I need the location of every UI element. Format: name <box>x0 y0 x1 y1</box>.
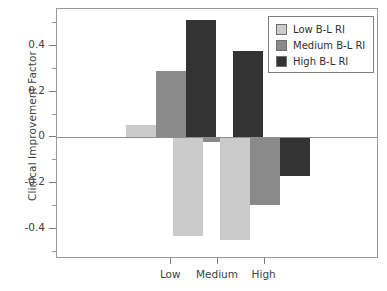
legend-label: Low B-L RI <box>293 25 345 35</box>
bar-high-high <box>280 137 310 176</box>
x-tick-label-high: High <box>224 268 304 280</box>
legend-item-high[interactable]: High B-L RI <box>276 54 373 69</box>
bar-high-medium <box>250 137 280 205</box>
legend-item-medium[interactable]: Medium B-L RI <box>276 38 373 53</box>
y-tick-label: 0 <box>5 129 45 141</box>
y-tick-label: 0.4 <box>5 38 45 50</box>
y-tick <box>49 136 56 137</box>
legend-swatch-icon <box>276 56 287 67</box>
legend-label: High B-L RI <box>293 57 348 67</box>
legend-swatch-icon <box>276 24 287 35</box>
y-tick-label: -0.4 <box>5 221 45 233</box>
x-tick <box>264 258 265 264</box>
y-tick-label: -0.2 <box>5 175 45 187</box>
x-tick <box>217 258 218 264</box>
x-tick <box>170 258 171 264</box>
y-tick <box>49 182 56 183</box>
legend-item-low[interactable]: Low B-L RI <box>276 22 373 37</box>
zero-baseline <box>57 137 377 138</box>
bar-medium-high <box>233 51 263 137</box>
y-tick-label: 0.2 <box>5 84 45 96</box>
bar-medium-low <box>173 137 203 236</box>
y-tick <box>49 45 56 46</box>
bar-chart: Clinical Improvement Factor 0.40.20-0.2-… <box>0 0 387 291</box>
bar-low-medium <box>156 71 186 138</box>
legend-label: Medium B-L RI <box>293 41 365 51</box>
bar-low-low <box>126 125 156 138</box>
legend-swatch-icon <box>276 40 287 51</box>
legend: Low B-L RI Medium B-L RI High B-L RI <box>268 16 374 73</box>
y-tick <box>49 228 56 229</box>
bar-high-low <box>220 137 250 239</box>
y-tick <box>49 91 56 92</box>
bar-low-high <box>186 20 216 137</box>
